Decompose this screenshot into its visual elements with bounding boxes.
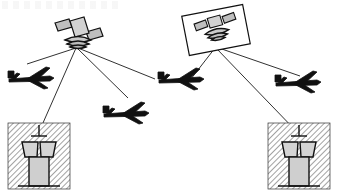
- tower-cabin-right-pane-a: [282, 142, 298, 157]
- link-satellite-left-to-aircraft-2: [77, 48, 128, 98]
- satellite-network-diagram: [0, 0, 338, 194]
- satellite-left-signal-waves: [65, 37, 91, 49]
- tower-cabin-right-pane-b: [300, 142, 316, 157]
- aircraft-lower-middle[interactable]: [103, 102, 149, 124]
- satellite-right[interactable]: [182, 4, 250, 55]
- link-satellite-left-to-aircraft-3: [78, 48, 155, 79]
- aircraft-middle-right[interactable]: [158, 68, 204, 90]
- tower-shaft-right: [289, 157, 309, 186]
- link-satellite-left-to-ground-left: [39, 48, 76, 132]
- aircraft-upper-left[interactable]: [8, 67, 54, 89]
- tower-cabin-right-pane: [40, 142, 56, 157]
- link-satellite-left-to-aircraft-1: [27, 48, 76, 64]
- ground-station-left[interactable]: [8, 123, 70, 189]
- aircraft-upper-right[interactable]: [275, 71, 321, 93]
- tower-shaft-left: [29, 157, 49, 186]
- tower-cabin-left-pane: [22, 142, 38, 157]
- faint-header-artifact: [2, 1, 122, 9]
- diagram-canvas: [0, 0, 338, 194]
- link-layer: [27, 47, 300, 133]
- ground-station-right[interactable]: [268, 123, 330, 189]
- satellite-left-body: [70, 17, 89, 37]
- satellite-left[interactable]: [55, 17, 103, 49]
